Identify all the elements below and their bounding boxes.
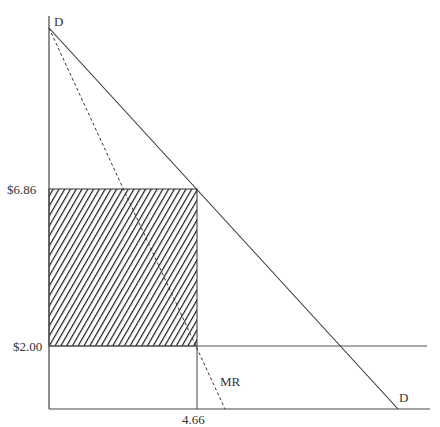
mr-label: MR [220,374,241,389]
demand-label-top: D [54,14,63,29]
price-high-tick: $6.86 [7,182,37,197]
monopoly-chart: D D MR $6.86 $2.00 4.66 [0,0,440,427]
demand-label-bottom: D [399,390,408,405]
quantity-tick: 4.66 [182,412,205,427]
price-low-tick: $2.00 [13,339,42,354]
profit-rectangle [49,189,197,346]
